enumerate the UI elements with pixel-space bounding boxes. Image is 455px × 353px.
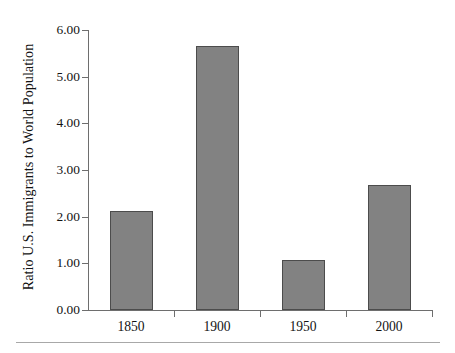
y-tick-mark bbox=[82, 77, 88, 78]
y-axis-line bbox=[88, 30, 89, 311]
bar-1950 bbox=[282, 260, 325, 310]
y-tick-label: 1.00 bbox=[38, 263, 80, 264]
bar-1900 bbox=[196, 46, 239, 310]
y-tick-label-text: 3.00 bbox=[38, 163, 80, 176]
y-axis-title-text: Ratio U.S. Immigrants to World Populatio… bbox=[21, 44, 35, 290]
y-axis-title: Ratio U.S. Immigrants to World Populatio… bbox=[16, 23, 40, 311]
y-tick-label-text: 1.00 bbox=[38, 256, 80, 269]
y-tick-label: 5.00 bbox=[38, 77, 80, 78]
x-tick-mark bbox=[432, 311, 433, 317]
y-tick-mark bbox=[82, 30, 88, 31]
y-tick-mark bbox=[82, 263, 88, 264]
x-tick-label-1950: 1950 bbox=[268, 320, 338, 334]
bar-2000 bbox=[368, 185, 411, 310]
x-tick-mark bbox=[174, 311, 175, 317]
y-tick-label: 3.00 bbox=[38, 170, 80, 171]
y-tick-label: 6.00 bbox=[38, 30, 80, 31]
x-tick-label-2000: 2000 bbox=[354, 320, 424, 334]
x-tick-mark bbox=[260, 311, 261, 317]
y-tick-label: 4.00 bbox=[38, 123, 80, 124]
x-tick-label-1900: 1900 bbox=[182, 320, 252, 334]
bar-1850 bbox=[110, 211, 153, 310]
y-tick-mark bbox=[82, 123, 88, 124]
y-tick-label-text: 2.00 bbox=[38, 210, 80, 223]
x-tick-mark bbox=[346, 311, 347, 317]
y-tick-label-text: 5.00 bbox=[38, 70, 80, 83]
y-tick-mark bbox=[82, 217, 88, 218]
y-tick-label: 2.00 bbox=[38, 217, 80, 218]
y-tick-label: 0.00 bbox=[38, 310, 80, 311]
y-tick-label-text: 6.00 bbox=[38, 23, 80, 36]
bar-chart-figure: Ratio U.S. Immigrants to World Populatio… bbox=[0, 0, 455, 353]
y-tick-mark bbox=[82, 310, 88, 311]
y-tick-label-text: 0.00 bbox=[38, 303, 80, 316]
x-tick-label-1850: 1850 bbox=[96, 320, 166, 334]
y-tick-label-text: 4.00 bbox=[38, 116, 80, 129]
bottom-rule bbox=[16, 342, 440, 343]
y-tick-mark bbox=[82, 170, 88, 171]
